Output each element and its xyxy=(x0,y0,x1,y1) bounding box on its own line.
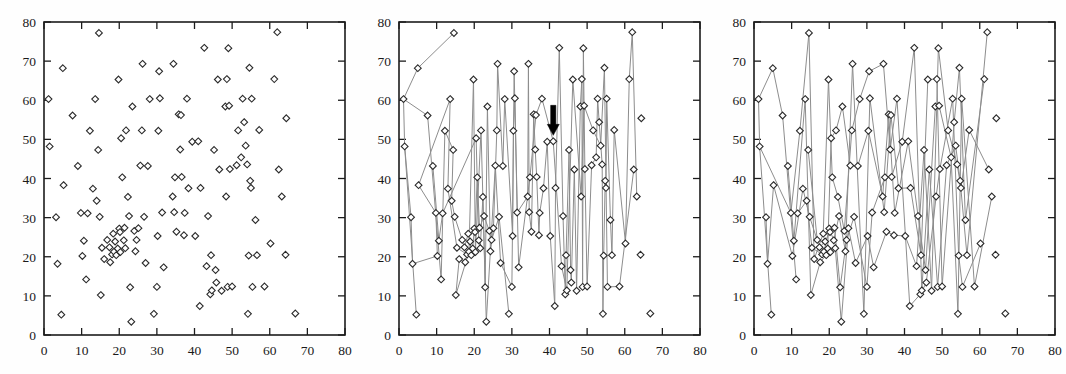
y-tick-label: 20 xyxy=(23,250,37,265)
y-tick-label: 40 xyxy=(23,172,37,187)
panel-scatter-points: 0102030405060708001020304050607080 xyxy=(0,0,356,374)
x-tick-label: 30 xyxy=(150,343,164,358)
panel-alternative-network: 0102030405060708001020304050607080 xyxy=(710,0,1066,374)
x-tick-label: 0 xyxy=(41,343,48,358)
y-tick-label: 10 xyxy=(378,289,392,304)
y-tick-label: 0 xyxy=(29,328,36,343)
y-tick-label: 80 xyxy=(378,15,392,30)
x-tick-label: 40 xyxy=(543,343,557,358)
x-tick-label: 0 xyxy=(751,343,758,358)
y-tick-label: 80 xyxy=(733,15,747,30)
y-tick-label: 20 xyxy=(378,250,392,265)
plot-canvas: 0102030405060708001020304050607080 xyxy=(355,0,711,374)
x-tick-label: 20 xyxy=(823,343,837,358)
y-tick-label: 30 xyxy=(733,211,747,226)
x-tick-label: 60 xyxy=(263,343,277,358)
x-tick-label: 50 xyxy=(225,343,239,358)
x-tick-label: 70 xyxy=(1011,343,1025,358)
y-tick-label: 50 xyxy=(23,132,37,147)
y-tick-label: 10 xyxy=(733,289,747,304)
plot-background xyxy=(44,22,345,335)
x-tick-label: 80 xyxy=(338,343,352,358)
y-tick-label: 60 xyxy=(23,93,37,108)
y-tick-label: 10 xyxy=(23,289,37,304)
x-tick-label: 60 xyxy=(973,343,987,358)
x-tick-label: 10 xyxy=(785,343,799,358)
x-tick-label: 0 xyxy=(396,343,403,358)
y-tick-label: 70 xyxy=(23,54,37,69)
y-tick-label: 40 xyxy=(733,172,747,187)
y-tick-label: 70 xyxy=(733,54,747,69)
x-tick-label: 10 xyxy=(430,343,444,358)
x-tick-label: 80 xyxy=(1048,343,1062,358)
y-tick-label: 80 xyxy=(23,15,37,30)
x-tick-label: 30 xyxy=(505,343,519,358)
y-tick-label: 20 xyxy=(733,250,747,265)
x-tick-label: 70 xyxy=(301,343,315,358)
x-tick-label: 50 xyxy=(935,343,949,358)
plot-canvas: 0102030405060708001020304050607080 xyxy=(710,0,1066,374)
plot-canvas: 0102030405060708001020304050607080 xyxy=(0,0,356,374)
y-tick-label: 30 xyxy=(23,211,37,226)
x-tick-label: 50 xyxy=(580,343,594,358)
y-tick-label: 40 xyxy=(378,172,392,187)
y-tick-label: 0 xyxy=(739,328,746,343)
y-tick-label: 50 xyxy=(733,132,747,147)
panel-minimum-spanning-tree: 0102030405060708001020304050607080 xyxy=(355,0,711,374)
x-tick-label: 80 xyxy=(693,343,707,358)
y-tick-label: 60 xyxy=(378,93,392,108)
x-tick-label: 20 xyxy=(113,343,127,358)
y-tick-label: 50 xyxy=(378,132,392,147)
y-tick-label: 0 xyxy=(384,328,391,343)
x-tick-label: 10 xyxy=(75,343,89,358)
x-tick-label: 30 xyxy=(860,343,874,358)
x-tick-label: 40 xyxy=(898,343,912,358)
y-tick-label: 30 xyxy=(378,211,392,226)
x-tick-label: 60 xyxy=(618,343,632,358)
x-tick-label: 20 xyxy=(468,343,482,358)
three-panel-scatter-figure: 0102030405060708001020304050607080 01020… xyxy=(0,0,1066,374)
y-tick-label: 60 xyxy=(733,93,747,108)
x-tick-label: 40 xyxy=(188,343,202,358)
x-tick-label: 70 xyxy=(656,343,670,358)
y-tick-label: 70 xyxy=(378,54,392,69)
